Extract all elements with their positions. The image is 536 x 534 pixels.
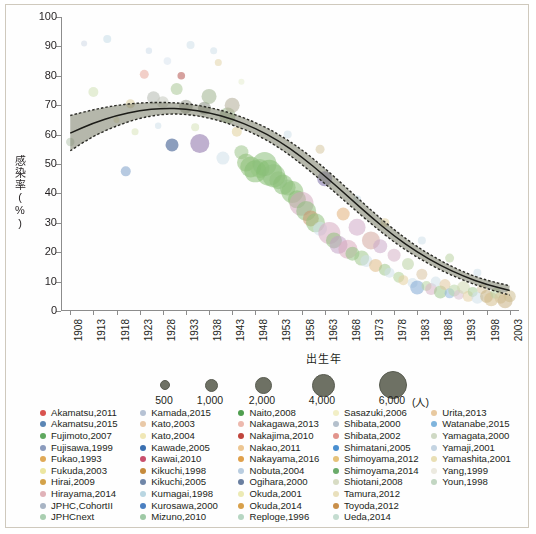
x-axis-tick-label: 1983 xyxy=(421,319,431,341)
study-legend-color-dot-icon xyxy=(140,479,146,485)
study-legend-item[interactable]: Reploge,1996 xyxy=(238,511,333,523)
study-legend-color-dot-icon xyxy=(238,514,244,520)
study-legend-label: Shimatani,2005 xyxy=(344,443,411,453)
study-legend-item[interactable]: Urita,2013 xyxy=(431,407,522,419)
x-axis-tick-label: 1953 xyxy=(282,319,292,341)
study-legend-item[interactable]: Fujisawa,1999 xyxy=(40,442,140,454)
study-legend-item[interactable]: Hirayama,2014 xyxy=(40,488,140,500)
study-legend-label: Shibata,2000 xyxy=(344,419,401,429)
study-legend-label: Tamura,2012 xyxy=(344,489,400,499)
study-legend-color-dot-icon xyxy=(238,491,244,497)
x-axis-tick xyxy=(302,310,303,315)
study-legend-label: Nakayama,2016 xyxy=(249,454,319,464)
study-legend-item[interactable]: Shibata,2002 xyxy=(333,430,431,442)
study-legend-label: Fukuda,2003 xyxy=(51,466,107,476)
x-axis-tick-label: 1978 xyxy=(398,319,408,341)
study-legend-color-dot-icon xyxy=(40,421,46,427)
study-legend-color-dot-icon xyxy=(431,456,437,462)
study-legend-item[interactable]: Okuda,2001 xyxy=(238,488,333,500)
study-legend-item[interactable]: Kikuchi,2005 xyxy=(140,477,238,489)
study-legend-label: Fukao,1993 xyxy=(51,454,102,464)
study-legend-item[interactable]: Sasazuki,2006 xyxy=(333,407,431,419)
study-legend-item[interactable]: Fukao,1993 xyxy=(40,453,140,465)
study-legend-color-dot-icon xyxy=(333,445,339,451)
study-legend-color-dot-icon xyxy=(238,479,244,485)
study-legend-color-dot-icon xyxy=(40,479,46,485)
study-legend-item[interactable]: Youn,1998 xyxy=(431,477,522,489)
study-legend-label: Shibata,2002 xyxy=(344,431,401,441)
study-legend-item[interactable]: Shimoyama,2014 xyxy=(333,465,431,477)
study-legend-item[interactable]: Yang,1999 xyxy=(431,465,522,477)
size-legend-bubble xyxy=(205,379,218,392)
study-legend-item[interactable]: Kamada,2015 xyxy=(140,407,238,419)
study-legend-color-dot-icon xyxy=(40,445,46,451)
study-legend-color-dot-icon xyxy=(333,479,339,485)
study-legend-item[interactable]: Shibata,2000 xyxy=(333,419,431,431)
study-legend-item[interactable]: Hirai,2009 xyxy=(40,477,140,489)
study-legend-label: JPHC,CohortII xyxy=(51,501,113,511)
study-legend-item[interactable]: Kawai,2010 xyxy=(140,453,238,465)
study-legend-item[interactable]: Shimoyama,2012 xyxy=(333,453,431,465)
study-legend-item[interactable]: JPHCnext xyxy=(40,511,140,523)
y-axis-line xyxy=(61,17,62,311)
size-legend-bubble xyxy=(255,377,272,394)
study-legend-label: Kikuchi,2005 xyxy=(151,477,206,487)
study-legend-item[interactable]: JPHC,CohortII xyxy=(40,500,140,512)
study-legend-color-dot-icon xyxy=(333,514,339,520)
study-legend-label: Ogihara,2000 xyxy=(249,477,307,487)
study-legend-color-dot-icon xyxy=(140,491,146,497)
study-legend-color-dot-icon xyxy=(333,421,339,427)
x-axis-tick-label: 1988 xyxy=(444,319,454,341)
study-legend-column: Naito,2008Nakagawa,2013Nakajima,2010Naka… xyxy=(238,407,333,523)
study-legend-item[interactable]: Kato,2004 xyxy=(140,430,238,442)
size-legend-label: 2,000 xyxy=(238,394,286,406)
study-legend-item[interactable]: Watanabe,2015 xyxy=(431,419,522,431)
study-legend-item[interactable]: Shimatani,2005 xyxy=(333,442,431,454)
study-legend-item[interactable]: Yamaji,2001 xyxy=(431,442,522,454)
study-legend-item[interactable]: Nakagawa,2013 xyxy=(238,419,333,431)
study-legend-item[interactable]: Kumagai,1998 xyxy=(140,488,238,500)
study-legend-item[interactable]: Ogihara,2000 xyxy=(238,477,333,489)
study-legend-item[interactable]: Akamatsu,2015 xyxy=(40,419,140,431)
study-legend-item[interactable]: Kikuchi,1998 xyxy=(140,465,238,477)
study-legend-item[interactable]: Ueda,2014 xyxy=(333,511,431,523)
study-legend-item[interactable]: Okuda,2014 xyxy=(238,500,333,512)
y-axis-tick-label: 80 xyxy=(17,70,57,81)
study-legend-color-dot-icon xyxy=(40,503,46,509)
y-axis-tick-label: 60 xyxy=(17,129,57,140)
x-axis-tick-label: 1973 xyxy=(375,319,385,341)
study-legend-item[interactable]: Mizuno,2010 xyxy=(140,511,238,523)
study-legend-item[interactable]: Fujimoto,2007 xyxy=(40,430,140,442)
y-axis-tick-label: 90 xyxy=(17,40,57,51)
study-legend-item[interactable]: Kato,2003 xyxy=(140,419,238,431)
study-legend-item[interactable]: Toyoda,2012 xyxy=(333,500,431,512)
x-axis-line xyxy=(61,310,519,311)
study-legend-item[interactable]: Fukuda,2003 xyxy=(40,465,140,477)
study-legend-color-dot-icon xyxy=(431,433,437,439)
y-axis-tick-label: 0 xyxy=(17,305,57,316)
study-legend-item[interactable]: Naito,2008 xyxy=(238,407,333,419)
study-legend-item[interactable]: Nobuta,2004 xyxy=(238,465,333,477)
study-legend-color-dot-icon xyxy=(140,445,146,451)
x-axis-tick xyxy=(348,310,349,315)
study-legend-item[interactable]: Yamagata,2000 xyxy=(431,430,522,442)
x-axis-tick xyxy=(209,310,210,315)
study-legend-item[interactable]: Tamura,2012 xyxy=(333,488,431,500)
study-legend-item[interactable]: Shiotani,2008 xyxy=(333,477,431,489)
x-axis-tick-label: 2003 xyxy=(514,319,524,341)
study-legend-label: Naito,2008 xyxy=(249,408,295,418)
study-legend-color-dot-icon xyxy=(40,514,46,520)
study-legend-item[interactable]: Kawade,2005 xyxy=(140,442,238,454)
study-legend-color-dot-icon xyxy=(238,456,244,462)
study-legend-item[interactable]: Nakajima,2010 xyxy=(238,430,333,442)
x-axis-tick xyxy=(394,310,395,315)
study-legend-item[interactable]: Nakayama,2016 xyxy=(238,453,333,465)
x-axis-tick xyxy=(255,310,256,315)
study-legend-label: Kato,2004 xyxy=(151,431,195,441)
study-legend-column: Akamatsu,2011Akamatsu,2015Fujimoto,2007F… xyxy=(40,407,140,523)
study-legend-item[interactable]: Akamatsu,2011 xyxy=(40,407,140,419)
study-legend-item[interactable]: Kurosawa,2000 xyxy=(140,500,238,512)
study-legend-item[interactable]: Nakao,2011 xyxy=(238,442,333,454)
study-legend-label: Shiotani,2008 xyxy=(344,477,403,487)
study-legend-item[interactable]: Yamashita,2001 xyxy=(431,453,522,465)
